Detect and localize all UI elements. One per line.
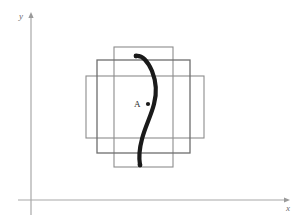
axes-group: y x — [18, 11, 290, 215]
point-a-label: A — [134, 99, 141, 109]
curve-start-cap — [134, 54, 139, 59]
rectangles-group — [86, 47, 204, 167]
figure-canvas: y x A — [0, 0, 300, 223]
y-axis-arrow-icon — [28, 12, 33, 18]
geometry-figure: y x A — [0, 0, 300, 223]
point-a-group: A — [134, 99, 150, 109]
curve-group — [134, 54, 156, 168]
y-axis-label: y — [18, 11, 23, 21]
x-axis-arrow-icon — [284, 197, 290, 202]
curve-end-cap — [138, 163, 143, 168]
s-curve — [136, 56, 156, 165]
x-axis-label: x — [285, 203, 290, 213]
tall-vertical-rectangle — [114, 47, 173, 167]
point-a-dot — [146, 102, 150, 106]
